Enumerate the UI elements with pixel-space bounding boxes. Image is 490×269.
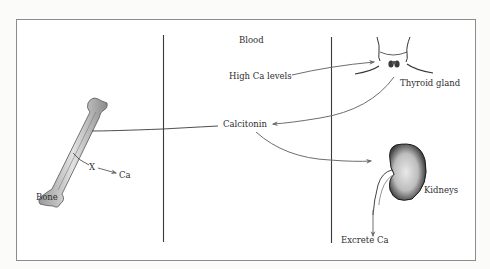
- calcitonin-label: Calcitonin: [223, 119, 267, 129]
- blocked-x-label: X: [89, 162, 95, 172]
- high-ca-levels-label: High Ca levels: [229, 71, 292, 81]
- blood-label: Blood: [239, 35, 264, 45]
- kidneys-label: Kidneys: [424, 185, 458, 195]
- bone-label: Bone: [36, 192, 58, 202]
- calcium-regulation-diagram: Blood High Ca levels Thyroid gland Calci…: [0, 0, 490, 269]
- thyroid-gland-label: Thyroid gland: [400, 78, 460, 88]
- ca-label: Ca: [119, 170, 131, 180]
- excrete-ca-label: Excrete Ca: [341, 235, 389, 245]
